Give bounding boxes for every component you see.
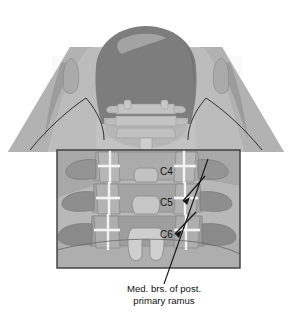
small-spinous-process bbox=[140, 138, 152, 150]
small-facet-left bbox=[124, 100, 131, 109]
caption-line-2: primary ramus bbox=[133, 295, 195, 306]
label-c4: C4 bbox=[160, 166, 173, 177]
anatomy-illustration: C4 C5 C6 Med. brs. of post. primary ramu… bbox=[0, 0, 292, 312]
caption-group: Med. brs. of post. primary ramus bbox=[127, 283, 201, 306]
c5-spinous-process bbox=[132, 196, 160, 214]
small-tp-left-mid bbox=[104, 118, 116, 125]
inset-contents bbox=[57, 150, 240, 268]
inset-detail bbox=[57, 150, 240, 268]
c4-spinous-process bbox=[134, 168, 158, 182]
label-c6: C6 bbox=[160, 229, 173, 240]
small-tp-left-upper bbox=[106, 106, 118, 113]
acromion-left bbox=[63, 58, 78, 93]
small-vertebra-lower bbox=[116, 128, 176, 138]
caption-line-1: Med. brs. of post. bbox=[127, 283, 201, 294]
small-tp-right-upper bbox=[174, 106, 186, 113]
acromion-right bbox=[213, 58, 228, 93]
small-facet-right bbox=[161, 100, 168, 109]
illustration-figure: C4 C5 C6 Med. brs. of post. primary ramu… bbox=[0, 0, 292, 312]
label-c5: C5 bbox=[160, 197, 173, 208]
small-vertebra-mid bbox=[114, 116, 178, 126]
small-tp-right-mid bbox=[176, 118, 188, 125]
